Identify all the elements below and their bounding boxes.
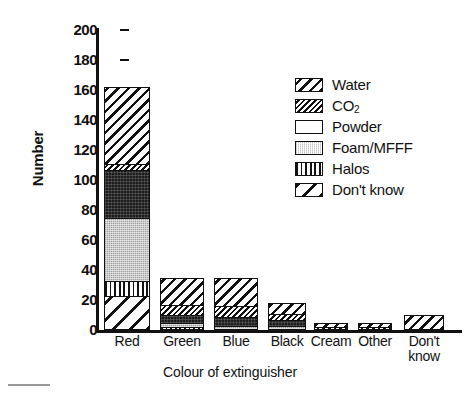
bar-segment-foam-mfff	[160, 323, 204, 328]
y-axis-tick-label: 40	[49, 261, 97, 278]
bar-segment-water	[214, 278, 258, 307]
bar-segment-halos	[214, 329, 258, 331]
y-axis-tick-label: 80	[49, 201, 97, 218]
bar-segment-co2	[214, 306, 258, 317]
y-axis-tick-label: 100	[49, 171, 97, 188]
legend-swatch	[295, 99, 323, 113]
legend-label: Foam/MFFF	[332, 139, 413, 156]
bar-segment-powder	[104, 170, 150, 218]
legend: WaterCO2PowderFoam/MFFFHalosDon't know	[295, 74, 470, 200]
bar-segment-water	[268, 303, 306, 314]
legend-label: Water	[332, 76, 370, 93]
legend-swatch	[295, 183, 323, 197]
legend-swatch	[295, 141, 323, 155]
bar-segment-foam-mfff	[268, 326, 306, 331]
bar-segment-water	[104, 87, 150, 164]
legend-label: Don't know	[332, 181, 404, 198]
legend-swatch	[295, 120, 323, 134]
legend-swatch	[295, 78, 323, 92]
bar-segment-halos	[104, 281, 150, 296]
legend-item-halos: Halos	[295, 158, 470, 179]
y-axis-tick-label: 140	[49, 111, 97, 128]
bar-segment-powder	[268, 320, 306, 326]
x-axis-title: Colour of extinguisher	[100, 364, 360, 380]
legend-item-water: Water	[295, 74, 470, 95]
bar-segment-co2	[314, 327, 348, 330]
y-axis-title: Number	[29, 114, 46, 204]
bar-segment-powder	[214, 317, 258, 326]
bar-segment-co2	[268, 314, 306, 320]
legend-label: CO2	[332, 97, 359, 114]
y-axis-tick-label: 60	[49, 231, 97, 248]
y-axis-tick-label: 0	[49, 321, 97, 338]
legend-label: Powder	[332, 118, 382, 135]
legend-label: Halos	[332, 160, 369, 177]
bar-segment-co2	[160, 305, 204, 316]
y-axis-tick-label: 180	[49, 51, 97, 68]
x-axis-tick-label-line: know	[394, 349, 454, 364]
y-axis-tick-label: 120	[49, 141, 97, 158]
bar-segment-co2	[358, 327, 392, 330]
x-axis-tick-label-line: Don't	[394, 334, 454, 349]
legend-item-don-t-know: Don't know	[295, 179, 470, 200]
bar-segment-water	[358, 323, 392, 328]
legend-item-powder: Powder	[295, 116, 470, 137]
legend-item-co2: CO2	[295, 95, 470, 116]
y-axis-tick-label: 20	[49, 291, 97, 308]
legend-swatch	[295, 162, 323, 176]
y-axis-tick-label: 160	[49, 81, 97, 98]
x-axis-tick-label: Don'tknow	[394, 334, 454, 364]
bar-segment-foam-mfff	[214, 326, 258, 329]
bar-segment-water	[160, 278, 204, 305]
y-axis-tick-label: 200	[49, 21, 97, 38]
bar-segment-foam-mfff	[104, 218, 150, 281]
bar-segment-halos	[160, 327, 204, 330]
bar-segment-don-t-know	[104, 296, 150, 331]
bar-segment-water	[314, 323, 348, 328]
extinguisher-colour-chart: 020406080100120140160180200 RedGreenBlue…	[0, 0, 474, 393]
bar-segment-powder	[160, 315, 204, 323]
bar-segment-co2	[104, 164, 150, 170]
legend-item-foam-mfff: Foam/MFFF	[295, 137, 470, 158]
scan-artifact	[8, 384, 50, 386]
bar-segment-water	[404, 315, 444, 330]
legend-label-subscript: 2	[354, 104, 359, 115]
